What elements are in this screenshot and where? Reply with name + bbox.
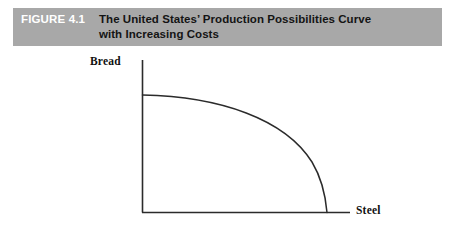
x-axis-label-steel: Steel: [356, 204, 381, 216]
y-axis-label-bread: Bread: [90, 55, 121, 67]
figure-title-line-2: with Increasing Costs: [99, 27, 436, 42]
figure-container: FIGURE 4.1 The United States’ Production…: [0, 0, 455, 243]
figure-title: The United States’ Production Possibilit…: [99, 12, 442, 42]
figure-number-label: FIGURE 4.1: [13, 12, 99, 27]
figure-header-band: FIGURE 4.1 The United States’ Production…: [13, 8, 442, 46]
production-possibilities-chart: [0, 46, 455, 243]
figure-title-line-1: The United States’ Production Possibilit…: [99, 12, 436, 27]
production-possibilities-curve: [143, 95, 328, 213]
chart-plot-area: Bread Steel: [0, 46, 455, 243]
